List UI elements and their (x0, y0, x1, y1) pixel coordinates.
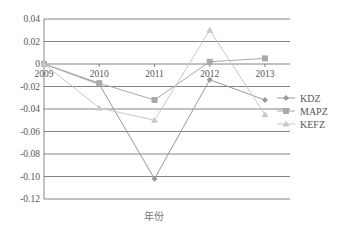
square-marker-icon (283, 108, 289, 114)
x-axis-ticks: 20092010201120122013 (35, 64, 275, 79)
square-marker-icon (262, 55, 268, 61)
x-tick-label: 2009 (35, 69, 54, 79)
legend: KDZMAPZKEFZ (277, 93, 328, 130)
y-tick-label: 0.02 (23, 37, 40, 47)
legend-label: MAPZ (300, 106, 328, 117)
legend-item-kefz: KEFZ (277, 119, 325, 130)
line-chart: 0.040.020-0.02-0.04-0.06-0.08-0.10-0.12 … (0, 0, 339, 230)
square-marker-icon (96, 80, 102, 86)
x-tick-label: 2010 (90, 69, 109, 79)
y-tick-label: -0.08 (20, 149, 40, 159)
y-tick-label: 0 (35, 59, 40, 69)
legend-label: KDZ (300, 93, 321, 104)
y-tick-label: -0.04 (20, 104, 40, 114)
triangle-marker-icon (262, 111, 269, 117)
x-axis-label: 年份 (144, 210, 164, 222)
triangle-marker-icon (96, 104, 103, 110)
square-marker-icon (207, 59, 213, 65)
square-marker-icon (152, 97, 158, 103)
diamond-marker-icon (283, 95, 289, 101)
y-tick-label: -0.02 (20, 82, 40, 92)
x-tick-label: 2013 (256, 69, 275, 79)
x-tick-label: 2011 (145, 69, 164, 79)
series-lines (41, 27, 269, 182)
gridlines (44, 19, 290, 199)
y-tick-label: -0.12 (20, 194, 40, 204)
y-tick-label: -0.10 (20, 172, 40, 182)
y-tick-label: 0.04 (23, 14, 40, 24)
legend-label: KEFZ (300, 119, 325, 130)
y-tick-label: -0.06 (20, 127, 40, 137)
series-mapz (41, 55, 268, 103)
triangle-marker-icon (206, 27, 213, 33)
legend-item-kdz: KDZ (277, 93, 321, 104)
y-axis-ticks: 0.040.020-0.02-0.04-0.06-0.08-0.10-0.12 (20, 14, 40, 204)
legend-item-mapz: MAPZ (277, 106, 328, 117)
diamond-marker-icon (262, 97, 268, 103)
